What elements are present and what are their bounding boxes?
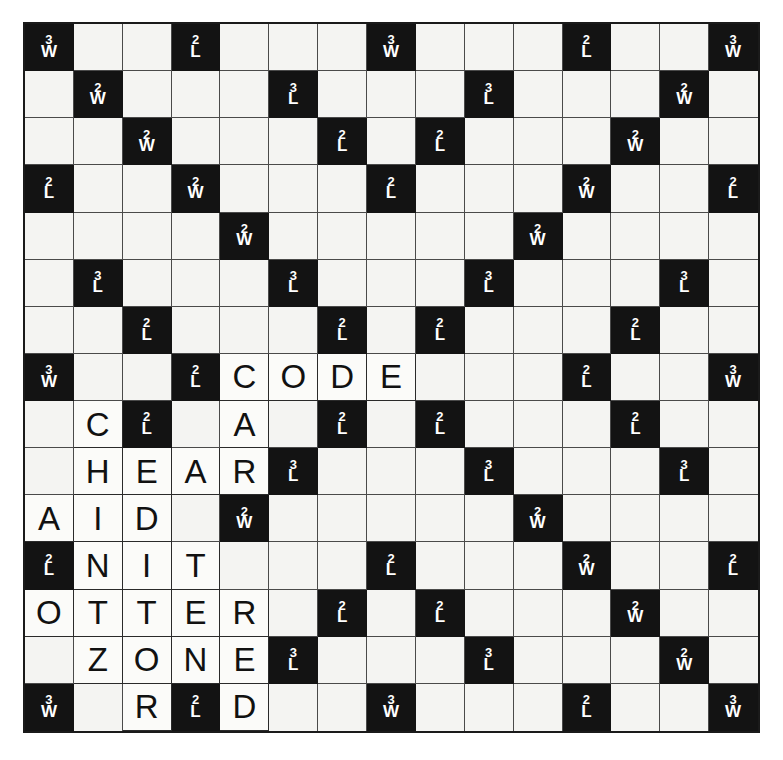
double-letter-square[interactable]: 2L	[709, 542, 758, 589]
letter-tile[interactable]: R	[220, 448, 269, 495]
empty-square[interactable]	[172, 401, 221, 448]
empty-square[interactable]	[563, 260, 612, 307]
empty-square[interactable]	[465, 684, 514, 731]
triple-letter-square[interactable]: 3L	[465, 71, 514, 118]
empty-square[interactable]	[709, 260, 758, 307]
empty-square[interactable]	[465, 165, 514, 212]
empty-square[interactable]	[563, 118, 612, 165]
triple-word-square[interactable]: 3W	[367, 24, 416, 71]
empty-square[interactable]	[709, 637, 758, 684]
empty-square[interactable]	[123, 260, 172, 307]
double-letter-square[interactable]: 2L	[416, 307, 465, 354]
double-letter-square[interactable]: 2L	[611, 307, 660, 354]
empty-square[interactable]	[74, 24, 123, 71]
empty-square[interactable]	[318, 542, 367, 589]
empty-square[interactable]	[563, 401, 612, 448]
triple-word-square[interactable]: 3W	[367, 684, 416, 731]
empty-square[interactable]	[25, 118, 74, 165]
empty-square[interactable]	[514, 24, 563, 71]
empty-square[interactable]	[660, 401, 709, 448]
empty-square[interactable]	[465, 307, 514, 354]
triple-letter-square[interactable]: 3L	[465, 637, 514, 684]
empty-square[interactable]	[514, 684, 563, 731]
double-letter-square[interactable]: 2L	[25, 542, 74, 589]
empty-square[interactable]	[709, 495, 758, 542]
triple-letter-square[interactable]: 3L	[660, 260, 709, 307]
empty-square[interactable]	[74, 307, 123, 354]
empty-square[interactable]	[25, 260, 74, 307]
letter-tile[interactable]: Z	[74, 637, 123, 684]
double-word-square[interactable]: 2W	[611, 590, 660, 637]
empty-square[interactable]	[220, 542, 269, 589]
empty-square[interactable]	[25, 637, 74, 684]
empty-square[interactable]	[563, 448, 612, 495]
letter-tile[interactable]: T	[172, 542, 221, 589]
empty-square[interactable]	[367, 637, 416, 684]
empty-square[interactable]	[514, 542, 563, 589]
letter-tile[interactable]: D	[318, 354, 367, 401]
empty-square[interactable]	[269, 307, 318, 354]
empty-square[interactable]	[416, 684, 465, 731]
empty-square[interactable]	[514, 307, 563, 354]
empty-square[interactable]	[220, 260, 269, 307]
empty-square[interactable]	[25, 307, 74, 354]
empty-square[interactable]	[465, 118, 514, 165]
empty-square[interactable]	[25, 213, 74, 260]
double-letter-square[interactable]: 2L	[172, 354, 221, 401]
empty-square[interactable]	[367, 590, 416, 637]
empty-square[interactable]	[25, 448, 74, 495]
empty-square[interactable]	[514, 637, 563, 684]
empty-square[interactable]	[660, 24, 709, 71]
double-letter-square[interactable]: 2L	[416, 118, 465, 165]
empty-square[interactable]	[172, 307, 221, 354]
double-letter-square[interactable]: 2L	[318, 307, 367, 354]
letter-tile[interactable]: E	[220, 637, 269, 684]
empty-square[interactable]	[611, 71, 660, 118]
triple-letter-square[interactable]: 3L	[269, 448, 318, 495]
empty-square[interactable]	[709, 118, 758, 165]
empty-square[interactable]	[318, 213, 367, 260]
empty-square[interactable]	[318, 24, 367, 71]
empty-square[interactable]	[611, 684, 660, 731]
empty-square[interactable]	[25, 71, 74, 118]
empty-square[interactable]	[318, 448, 367, 495]
empty-square[interactable]	[367, 213, 416, 260]
empty-square[interactable]	[367, 307, 416, 354]
empty-square[interactable]	[416, 542, 465, 589]
empty-square[interactable]	[25, 401, 74, 448]
empty-square[interactable]	[514, 590, 563, 637]
double-letter-square[interactable]: 2L	[563, 684, 612, 731]
empty-square[interactable]	[660, 590, 709, 637]
empty-square[interactable]	[465, 213, 514, 260]
empty-square[interactable]	[563, 71, 612, 118]
triple-letter-square[interactable]: 3L	[269, 71, 318, 118]
empty-square[interactable]	[74, 354, 123, 401]
letter-tile[interactable]: E	[172, 590, 221, 637]
empty-square[interactable]	[269, 401, 318, 448]
empty-square[interactable]	[74, 165, 123, 212]
empty-square[interactable]	[318, 684, 367, 731]
empty-square[interactable]	[123, 354, 172, 401]
empty-square[interactable]	[269, 542, 318, 589]
double-letter-square[interactable]: 2L	[367, 165, 416, 212]
empty-square[interactable]	[74, 684, 123, 731]
empty-square[interactable]	[367, 71, 416, 118]
double-letter-square[interactable]: 2L	[318, 118, 367, 165]
letter-tile[interactable]: T	[74, 590, 123, 637]
empty-square[interactable]	[611, 637, 660, 684]
empty-square[interactable]	[172, 71, 221, 118]
double-letter-square[interactable]: 2L	[123, 401, 172, 448]
double-word-square[interactable]: 2W	[220, 495, 269, 542]
letter-tile[interactable]: A	[172, 448, 221, 495]
empty-square[interactable]	[269, 684, 318, 731]
empty-square[interactable]	[660, 684, 709, 731]
letter-tile[interactable]: D	[220, 684, 269, 731]
double-letter-square[interactable]: 2L	[709, 165, 758, 212]
letter-tile[interactable]: I	[74, 495, 123, 542]
double-letter-square[interactable]: 2L	[416, 401, 465, 448]
empty-square[interactable]	[514, 165, 563, 212]
empty-square[interactable]	[465, 590, 514, 637]
empty-square[interactable]	[172, 260, 221, 307]
empty-square[interactable]	[416, 495, 465, 542]
triple-word-square[interactable]: 3W	[709, 24, 758, 71]
